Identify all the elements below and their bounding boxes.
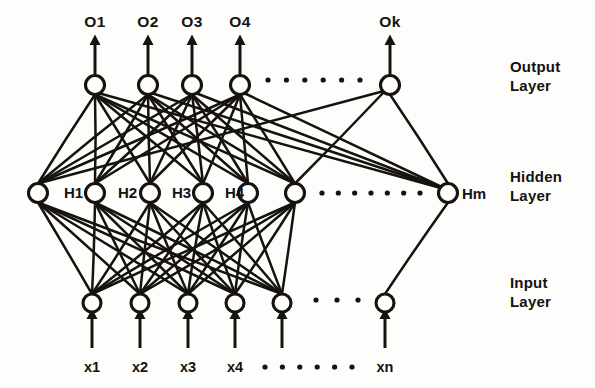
input-label-xn: xn	[377, 359, 394, 375]
neuron-node-ok	[381, 76, 400, 95]
neuron-node-h0	[29, 184, 48, 203]
hidden-layer-label-line2: Layer	[510, 187, 551, 204]
output-ellipsis-dot	[265, 77, 270, 82]
output-ellipsis-dot	[302, 77, 307, 82]
input-label-x1: x1	[84, 359, 100, 375]
neuron-node-xn	[376, 294, 394, 312]
neuron-node-x1	[83, 294, 101, 312]
input-label-x3: x3	[180, 359, 196, 375]
hidden-ellipsis-dot	[319, 190, 324, 195]
hidden-label-h3: H3	[172, 184, 191, 201]
input-label-x2: x2	[132, 359, 148, 375]
hidden-label-h2: H2	[118, 184, 137, 201]
hidden-ellipsis-dot	[368, 190, 373, 195]
input-label-x4: x4	[227, 359, 243, 375]
input-ellipsis-dot	[334, 297, 339, 302]
hidden-ellipsis-dot	[385, 190, 390, 195]
output-label-ok: Ok	[379, 13, 400, 30]
input-ellipsis-dot	[313, 297, 318, 302]
output-layer-label-line2: Layer	[510, 77, 551, 94]
network-canvas: O1O2O3O4OkH1H2H3H4Hmx1x2x3x4xn OutputLay…	[0, 0, 595, 388]
layer-name-labels: OutputLayerHiddenLayerInputLayer	[510, 58, 562, 310]
input-label-ellipsis-dot	[297, 364, 302, 369]
hidden-label-h1: H1	[64, 184, 83, 201]
neuron-node-o2	[139, 76, 158, 95]
output-label-o3: O3	[181, 13, 202, 30]
neural-network-diagram: O1O2O3O4OkH1H2H3H4Hmx1x2x3x4xn OutputLay…	[0, 0, 595, 388]
output-ellipsis-dot	[339, 77, 344, 82]
hidden-ellipsis-dot	[336, 190, 341, 195]
input-label-ellipsis-dot	[332, 364, 337, 369]
input-layer-label-line1: Input	[510, 274, 548, 291]
hidden-to-output-edges	[38, 91, 448, 190]
neuron-node-h3	[194, 184, 213, 203]
input-ellipsis-dot	[355, 297, 360, 302]
neuron-node-hm	[439, 184, 458, 203]
input-label-ellipsis-dot	[262, 364, 267, 369]
output-ellipsis-dot	[357, 77, 362, 82]
neuron-node-x4	[226, 294, 244, 312]
hidden-ellipsis-dot	[401, 190, 406, 195]
output-ellipsis-dot	[321, 77, 326, 82]
output-label-o2: O2	[137, 13, 158, 30]
input-label-ellipsis-dot	[280, 364, 285, 369]
output-layer-label-line1: Output	[510, 58, 560, 75]
output-label-o4: O4	[229, 13, 250, 30]
hidden-ellipsis-dot	[417, 190, 422, 195]
input-label-ellipsis-dot	[349, 364, 354, 369]
neuron-node-o4	[231, 76, 250, 95]
neuron-node-o3	[183, 76, 202, 95]
neuron-node-h5	[286, 184, 305, 203]
neuron-node-h2	[141, 184, 160, 203]
neuron-node-x5	[273, 294, 291, 312]
hidden-ellipsis-dot	[352, 190, 357, 195]
neuron-node-h1	[86, 184, 105, 203]
neuron-node-x2	[131, 294, 149, 312]
neuron-node-o1	[86, 76, 105, 95]
ellipsis-dots	[262, 77, 422, 369]
output-label-o1: O1	[84, 13, 105, 30]
input-layer-label-line2: Layer	[510, 293, 551, 310]
hidden-label-hm: Hm	[462, 185, 486, 202]
hidden-label-h4: H4	[225, 184, 245, 201]
output-ellipsis-dot	[284, 77, 289, 82]
hidden-layer-label-line1: Hidden	[510, 168, 562, 185]
node-labels: O1O2O3O4OkH1H2H3H4Hmx1x2x3x4xn	[64, 13, 486, 375]
neuron-node-x3	[179, 294, 197, 312]
input-to-hidden-edges	[38, 203, 448, 295]
input-label-ellipsis-dot	[315, 364, 320, 369]
